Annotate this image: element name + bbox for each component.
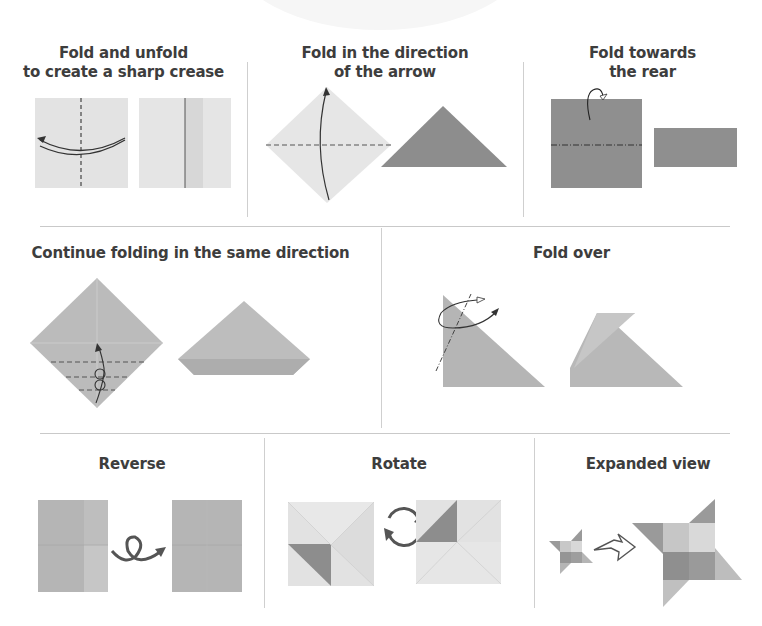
expanded-view-diagram-icon xyxy=(534,438,762,626)
divider xyxy=(40,226,730,227)
panel-fold-rear: Fold towards the rear xyxy=(523,0,762,220)
panel-fold-direction: Fold in the direction of the arrow xyxy=(247,0,523,220)
fold-direction-diagram-icon xyxy=(247,0,523,220)
panel-reverse: Reverse xyxy=(0,438,264,626)
fold-unfold-diagram-icon xyxy=(0,0,247,220)
continue-folding-diagram-icon xyxy=(0,228,381,428)
panel-continue-folding: Continue folding in the same direction xyxy=(0,228,381,428)
fold-rear-diagram-icon xyxy=(523,0,762,220)
reverse-diagram-icon xyxy=(0,438,264,626)
panel-fold-and-unfold: Fold and unfold to create a sharp crease xyxy=(0,0,247,220)
fold-over-diagram-icon xyxy=(381,228,762,428)
divider xyxy=(40,433,730,434)
panel-rotate: Rotate xyxy=(264,438,534,626)
panel-fold-over: Fold over xyxy=(381,228,762,428)
panel-expanded-view: Expanded view xyxy=(534,438,762,626)
rotate-diagram-icon xyxy=(264,438,534,626)
